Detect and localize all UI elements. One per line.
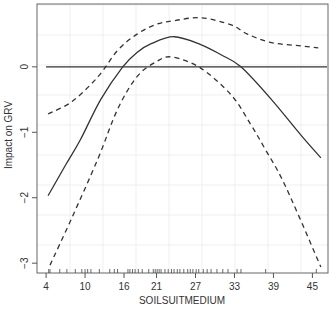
rug-marks <box>49 269 317 273</box>
x-tick-label: 39 <box>268 281 280 292</box>
y-axis-label: Impact on GRV <box>3 101 14 170</box>
y-axis: 0−1−2−3 <box>19 64 37 269</box>
x-tick-label: 33 <box>229 281 241 292</box>
lower-confidence-band <box>50 57 321 267</box>
x-tick-label: 16 <box>118 281 130 292</box>
x-tick-label: 4 <box>43 281 49 292</box>
y-tick-label: −2 <box>19 192 30 204</box>
x-tick-label: 45 <box>307 281 319 292</box>
x-tick-label: 27 <box>190 281 202 292</box>
y-tick-label: −3 <box>19 257 30 269</box>
x-axis: 410162127333945 <box>43 273 318 292</box>
series-layer <box>48 18 321 268</box>
gam-partial-effect-chart: 410162127333945 0−1−2−3 SOILSUITMEDIUM I… <box>0 0 336 310</box>
y-tick-label: 0 <box>19 64 30 70</box>
x-axis-label: SOILSUITMEDIUM <box>139 295 225 306</box>
x-tick-label: 21 <box>151 281 163 292</box>
y-tick-label: −1 <box>19 126 30 138</box>
x-tick-label: 10 <box>80 281 92 292</box>
upper-confidence-band <box>48 18 318 114</box>
